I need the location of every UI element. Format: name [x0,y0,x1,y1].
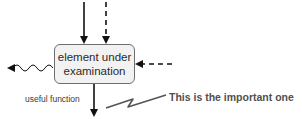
box-label-line1: element under [58,50,132,64]
wavy-output-arrow [9,65,53,71]
annotation-label: This is the important one [169,91,294,103]
annotation-pointer [106,95,166,108]
box-label-line2: examination [63,64,125,78]
element-under-examination-box: element under examination [54,44,135,84]
useful-function-label: useful function [25,94,80,104]
